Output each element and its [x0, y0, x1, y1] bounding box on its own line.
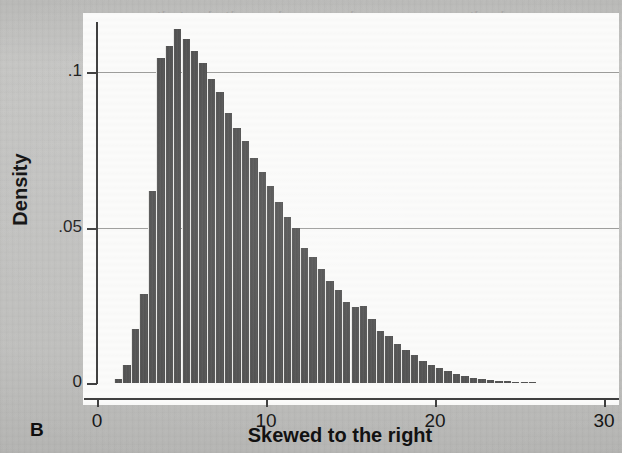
y-axis-title: Density	[9, 135, 32, 245]
panel-label: B	[30, 419, 44, 441]
x-axis-title: Skewed to the right	[180, 424, 500, 447]
figure-panel	[83, 13, 619, 405]
